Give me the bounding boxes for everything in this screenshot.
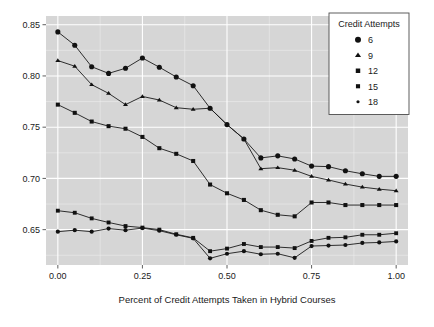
data-point — [225, 191, 229, 195]
y-tick-label: 0.80 — [22, 71, 40, 81]
x-tick-label: 0.75 — [303, 271, 321, 281]
legend-label-12: 12 — [368, 66, 378, 76]
data-point — [123, 66, 128, 71]
y-tick-label: 0.70 — [22, 174, 40, 184]
legend-label-6: 6 — [368, 35, 373, 45]
data-point — [90, 216, 94, 220]
data-point — [107, 124, 111, 128]
data-point — [124, 224, 128, 228]
data-point — [174, 233, 178, 237]
data-point — [242, 249, 246, 253]
data-point — [327, 236, 331, 240]
data-point — [276, 245, 280, 249]
data-point — [157, 229, 161, 233]
legend-label-18: 18 — [368, 97, 378, 107]
data-point — [377, 233, 381, 237]
data-point — [225, 252, 229, 256]
data-point — [90, 230, 94, 234]
data-point — [258, 155, 263, 160]
data-point — [326, 243, 330, 247]
data-point — [326, 200, 330, 204]
data-point — [208, 183, 212, 187]
data-point — [259, 208, 263, 212]
data-point — [56, 103, 60, 107]
data-point — [140, 135, 144, 139]
data-point — [56, 209, 60, 213]
data-point — [343, 203, 347, 207]
data-point — [225, 247, 229, 251]
legend-marker-12 — [356, 69, 360, 73]
data-point — [89, 64, 94, 69]
data-point — [394, 203, 398, 207]
data-point — [90, 120, 94, 124]
data-point — [377, 174, 382, 179]
legend-label-9: 9 — [368, 51, 373, 61]
legend-marker-15 — [356, 84, 360, 88]
data-point — [377, 240, 381, 244]
data-point — [174, 74, 179, 79]
data-point — [140, 226, 144, 230]
data-point — [360, 241, 364, 245]
x-axis-title: Percent of Credit Attempts Taken in Hybr… — [119, 294, 336, 305]
data-point — [157, 146, 161, 150]
y-tick-label: 0.65 — [22, 225, 40, 235]
y-tick-label: 0.75 — [22, 122, 40, 132]
data-point — [394, 174, 399, 179]
data-point — [123, 228, 127, 232]
data-point — [293, 246, 297, 250]
data-point — [275, 153, 280, 158]
data-point — [73, 211, 77, 215]
data-point — [208, 249, 212, 253]
data-point — [73, 228, 77, 232]
legend-marker-18 — [356, 100, 359, 103]
data-point — [292, 156, 297, 161]
data-point — [310, 200, 314, 204]
x-tick-label: 0.25 — [134, 271, 152, 281]
data-point — [394, 231, 398, 235]
x-tick-label: 0.00 — [49, 271, 67, 281]
data-point — [310, 239, 314, 243]
data-point — [72, 43, 77, 48]
data-point — [191, 159, 195, 163]
data-point — [360, 171, 365, 176]
chart-figure: 0.650.700.750.800.85 0.000.250.500.751.0… — [0, 0, 434, 327]
data-point — [73, 111, 77, 115]
y-tick-label: 0.85 — [22, 20, 40, 30]
data-point — [377, 203, 381, 207]
data-point — [360, 203, 364, 207]
x-tick-label: 1.00 — [387, 271, 405, 281]
data-point — [106, 71, 111, 76]
data-point — [106, 227, 110, 231]
x-tick-label: 0.50 — [218, 271, 236, 281]
data-point — [242, 198, 246, 202]
data-point — [208, 256, 212, 260]
data-point — [174, 152, 178, 156]
data-point — [123, 127, 127, 131]
legend-title: Credit Attempts — [338, 19, 400, 29]
data-point — [309, 244, 313, 248]
legend-label-15: 15 — [368, 82, 378, 92]
data-point — [107, 221, 111, 225]
data-point — [56, 230, 60, 234]
line-chart: 0.650.700.750.800.85 0.000.250.500.751.0… — [0, 0, 434, 327]
data-point — [276, 213, 280, 217]
data-point — [293, 214, 297, 218]
data-point — [276, 252, 280, 256]
data-point — [343, 235, 347, 239]
data-point — [326, 164, 331, 169]
data-point — [309, 164, 314, 169]
data-point — [242, 242, 246, 246]
data-point — [394, 239, 398, 243]
data-point — [157, 65, 162, 70]
data-point — [293, 256, 297, 260]
data-point — [191, 236, 195, 240]
data-point — [55, 29, 60, 34]
data-point — [343, 243, 347, 247]
data-point — [259, 245, 263, 249]
chart-legend: Credit Attempts69121518 — [329, 13, 409, 115]
data-point — [191, 83, 196, 88]
data-point — [259, 252, 263, 256]
legend-marker-6 — [355, 37, 361, 43]
data-point — [343, 168, 348, 173]
data-point — [140, 55, 145, 60]
